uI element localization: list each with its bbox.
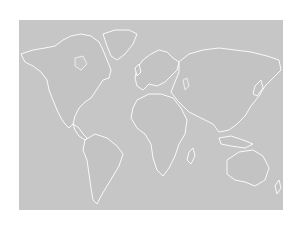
australia — [227, 150, 269, 186]
world-map-outline — [19, 20, 283, 210]
greenland — [103, 30, 137, 60]
africa — [131, 94, 187, 176]
asia — [171, 48, 281, 132]
world-map — [19, 20, 283, 210]
madagascar — [187, 148, 195, 164]
north-america — [21, 34, 111, 128]
new-zealand — [275, 180, 281, 194]
central-america — [73, 124, 87, 140]
europe — [135, 50, 179, 90]
indonesia — [219, 136, 253, 148]
south-america — [83, 134, 123, 204]
